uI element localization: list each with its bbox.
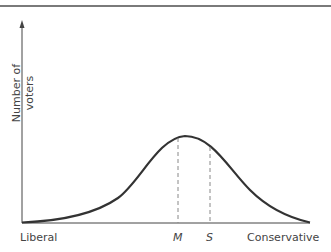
y-axis-arrow-icon — [20, 20, 25, 28]
marker-label-s: S — [206, 231, 213, 244]
x-label-conservative: Conservative — [247, 231, 319, 244]
x-label-liberal: Liberal — [20, 231, 57, 244]
marker-label-m: M — [173, 231, 183, 244]
voter-distribution-chart — [0, 0, 331, 252]
y-axis-label: Number of voters — [10, 48, 36, 138]
distribution-curve — [22, 136, 310, 223]
